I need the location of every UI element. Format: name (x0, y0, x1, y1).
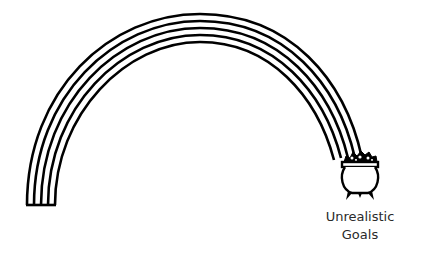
cartoon-canvas: Unrealistic Goals (0, 0, 427, 260)
pot-of-gold-icon (342, 151, 378, 200)
rainbow-icon (26, 14, 371, 205)
caption-line-2: Goals (320, 228, 400, 241)
caption-line-1: Unrealistic (320, 210, 400, 223)
